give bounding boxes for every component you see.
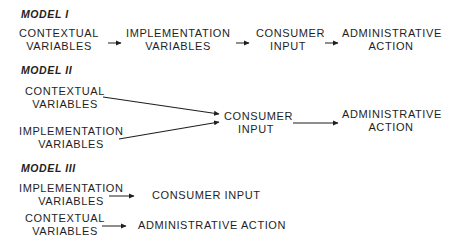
arrow-m2-ctx-cons [103,97,219,114]
m2-administrative-node: ADMINISTRATIVE ACTION [342,108,440,134]
label-line: CONSUMER [224,110,288,123]
label-line: ACTION [342,121,440,134]
m3-consumer-node: CONSUMER INPUT [152,189,261,202]
label-line: VARIABLES [19,40,99,53]
m1-administrative-node: ADMINISTRATIVE ACTION [342,27,440,53]
m2-implementation-node: IMPLEMENTATION VARIABLES [19,125,123,151]
label-line: ACTION [342,40,440,53]
m3-implementation-node: IMPLEMENTATION VARIABLES [19,182,123,208]
label-line: INPUT [256,40,320,53]
label-line: CONTEXTUAL [25,85,105,98]
label-line: VARIABLES [126,40,230,53]
label-line: CONTEXTUAL [19,27,99,40]
m3-contextual-node: CONTEXTUAL VARIABLES [25,212,105,238]
model-3-title: MODEL III [21,162,76,174]
label-line: VARIABLES [19,138,123,151]
label-line: IMPLEMENTATION [19,182,123,195]
m1-implementation-node: IMPLEMENTATION VARIABLES [126,27,230,53]
label-line: CONTEXTUAL [25,212,105,225]
label-line: CONSUMER [256,27,320,40]
m1-consumer-node: CONSUMER INPUT [256,27,320,53]
label-line: IMPLEMENTATION [126,27,230,40]
model-2-title: MODEL II [21,64,72,76]
m2-consumer-node: CONSUMER INPUT [224,110,288,136]
label-line: VARIABLES [25,98,105,111]
label-line: ADMINISTRATIVE [342,27,440,40]
m3-administrative-node: ADMINISTRATIVE ACTION [138,219,286,232]
label-line: INPUT [224,123,288,136]
m2-contextual-node: CONTEXTUAL VARIABLES [25,85,105,111]
label-line: VARIABLES [19,195,123,208]
label-line: IMPLEMENTATION [19,125,123,138]
arrow-m2-impl-cons [119,122,219,139]
label-line: ADMINISTRATIVE [342,108,440,121]
m1-contextual-node: CONTEXTUAL VARIABLES [19,27,99,53]
label-line: VARIABLES [25,225,105,238]
model-1-title: MODEL I [21,8,69,20]
